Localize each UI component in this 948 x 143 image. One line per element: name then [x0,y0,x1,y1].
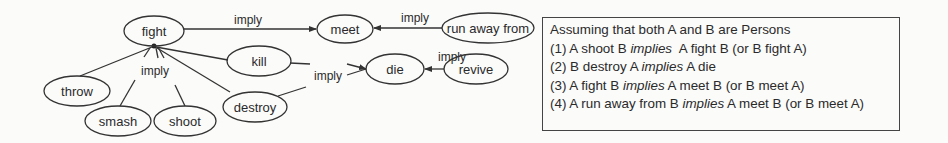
edge-label-subverbs-fight: imply [141,64,169,78]
node-kill: kill [227,46,291,76]
note-rule-2: (2) B destroy A implies A die [550,58,899,77]
edge-kill-die [290,63,310,64]
assumption-note-box: Assuming that both A and B are Persons (… [542,17,900,131]
node-label: run away from [447,21,529,36]
node-label: throw [61,84,93,99]
node-throw: throw [44,76,110,106]
edge-kill-die-arrow-2 [347,69,366,75]
node-destroy: destroy [223,92,287,122]
edge-label-kill-destroy-die: imply [314,69,342,83]
edge-label-fight-meet: imply [234,13,262,27]
node-label: meet [331,22,360,37]
node-die: die [366,54,424,84]
rule-2-verb: implies [642,59,684,74]
node-shoot: shoot [154,106,216,136]
edge-kill-die-arrow-1 [347,64,366,69]
edge-shoot-fight [175,85,185,106]
note-title: Assuming that both A and B are Persons [550,21,899,40]
rule-3-pre: (3) A fight B [550,78,623,93]
node-revive: revive [444,54,508,84]
node-label: revive [459,62,494,77]
node-label: fight [142,24,167,39]
edge-destroy-die [278,87,306,96]
node-label: smash [99,114,137,129]
edge-label-runaway-meet: imply [401,11,429,25]
rule-1-verb: implies [630,41,672,56]
rule-1-pre: (1) A shoot B [550,41,630,56]
rule-3-post: A meet B (or B meet A) [665,78,805,93]
rule-2-post: A die [683,59,716,74]
node-label: kill [251,54,266,69]
node-label: shoot [169,114,201,129]
note-rule-1: (1) A shoot B implies A fight B (or B fi… [550,40,899,59]
node-label: die [386,62,403,77]
node-run-away-from: run away from [442,13,534,43]
rule-1-post: A fight B (or B fight A) [672,41,807,56]
rule-4-post: A meet B (or B meet A) [724,96,864,111]
rule-4-verb: implies [682,96,724,111]
edge-smash-fight [120,80,135,106]
note-rule-3: (3) A fight B implies A meet B (or B mee… [550,77,899,96]
node-smash: smash [85,106,151,136]
rule-4-pre: (4) A run away from B [550,96,682,111]
edge-tick-2 [156,48,158,58]
note-rule-4: (4) A run away from B implies A meet B (… [550,95,899,114]
rule-3-verb: implies [623,78,665,93]
rule-2-pre: (2) B destroy A [550,59,642,74]
node-label: destroy [234,100,277,115]
node-meet: meet [317,15,373,43]
node-fight: fight [124,16,184,46]
